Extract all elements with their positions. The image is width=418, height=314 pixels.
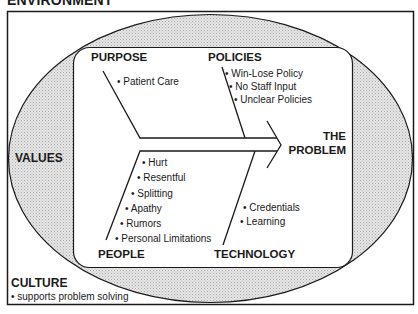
culture-item: • supports problem solving <box>11 291 128 302</box>
purpose-label: PURPOSE <box>91 51 147 63</box>
effect-line-2: PROBLEM <box>286 143 346 157</box>
culture-label: CULTURE <box>11 276 67 290</box>
policies-item: • No Staff Input <box>229 81 296 92</box>
policies-item: • Unclear Policies <box>234 94 312 105</box>
people-item: • Apathy <box>125 203 162 214</box>
values-label: VALUES <box>15 151 63 165</box>
people-label: PEOPLE <box>98 248 145 260</box>
effect-line-1: THE <box>286 129 346 143</box>
technology-item: • Learning <box>240 216 285 227</box>
people-item: • Splitting <box>131 188 173 199</box>
people-item: • Personal Limitations <box>115 233 211 244</box>
people-item: • Resentful <box>137 172 186 183</box>
technology-item: • Credentials <box>243 202 300 213</box>
effect-label: THE PROBLEM <box>286 129 346 157</box>
people-item: • Rumors <box>120 218 161 229</box>
policies-label: POLICIES <box>208 51 262 63</box>
technology-label: TECHNOLOGY <box>214 248 295 260</box>
policies-item: • Win-Lose Policy <box>225 68 303 79</box>
purpose-item: • Patient Care <box>117 76 179 87</box>
people-item: • Hurt <box>142 157 167 168</box>
